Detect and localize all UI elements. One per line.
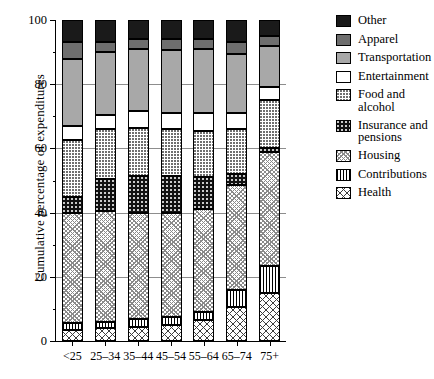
legend-item-label: Entertainment	[358, 70, 429, 83]
bar-segment-housing	[193, 209, 214, 312]
bar-segment-housing	[95, 211, 116, 322]
legend-item-label: Food and alcohol	[358, 88, 432, 113]
light-gray-swatch	[336, 52, 351, 64]
legend-item[interactable]: Insurance and pensions	[336, 119, 432, 144]
bar-segment-apparel	[193, 39, 214, 49]
y-axis-minor-tick	[53, 116, 57, 117]
bar-segment-entertain	[226, 113, 247, 129]
coarse-crosshatch-swatch	[336, 187, 351, 199]
bar-segment-other	[95, 20, 116, 42]
bar-segment-other	[128, 20, 149, 39]
bar-segment-other	[259, 20, 280, 36]
y-axis-title: Cumulative percentage of expenditures	[32, 18, 48, 338]
legend-item[interactable]: Housing	[336, 149, 432, 162]
bar-2534	[95, 20, 116, 341]
bar-segment-other	[161, 20, 182, 39]
y-axis-tick	[50, 213, 56, 214]
legend-item[interactable]: Transportation	[336, 51, 432, 64]
x-axis-tick-label: 65–74	[222, 350, 252, 362]
legend-item[interactable]: Food and alcohol	[336, 88, 432, 113]
bar-segment-contrib	[62, 323, 83, 329]
legend-item[interactable]: Contributions	[336, 168, 432, 181]
bar-segment-health	[226, 307, 247, 341]
legend-item[interactable]: Apparel	[336, 33, 432, 46]
x-axis-tick-label: 25–34	[90, 350, 120, 362]
bar-4554	[161, 20, 182, 341]
fine-crosshatch-swatch	[336, 150, 351, 162]
bar-5564	[193, 20, 214, 341]
bar-6574	[226, 20, 247, 341]
y-axis-tick-label: 20	[35, 271, 48, 284]
bar-segment-transport	[161, 50, 182, 113]
bar-segment-transport	[128, 49, 149, 112]
bar-segment-entertain	[62, 126, 83, 140]
bar-segment-food	[95, 129, 116, 179]
bar-segment-entertain	[161, 113, 182, 129]
x-axis-tick	[270, 341, 271, 346]
bar-segment-housing	[226, 185, 247, 289]
bar-segment-insurance	[226, 174, 247, 185]
bar-segment-insurance	[62, 197, 83, 213]
bar-75	[259, 20, 280, 341]
bar-segment-apparel	[128, 39, 149, 49]
bar-segment-housing	[128, 213, 149, 319]
bar-segment-food	[226, 129, 247, 174]
x-axis-tick	[105, 341, 106, 346]
bar-segment-contrib	[128, 319, 149, 327]
x-axis-tick	[138, 341, 139, 346]
bar-segment-transport	[95, 52, 116, 115]
y-axis-tick-label: 40	[35, 206, 48, 219]
y-axis-tick-label: 80	[35, 78, 48, 91]
bar-segment-entertain	[259, 87, 280, 100]
bar-segment-other	[62, 20, 83, 42]
bar-segment-food	[161, 129, 182, 176]
bar-segment-apparel	[259, 36, 280, 46]
x-axis-tick-label: <25	[63, 350, 82, 362]
legend: OtherApparelTransportationEntertainmentF…	[336, 14, 432, 205]
black-dots-swatch	[336, 120, 351, 132]
white-swatch	[336, 71, 351, 83]
legend-item-label: Other	[358, 14, 386, 27]
bar-segment-food	[259, 100, 280, 148]
x-axis-tick	[72, 341, 73, 346]
legend-item[interactable]: Entertainment	[336, 70, 432, 83]
bar-segment-apparel	[95, 42, 116, 52]
bar-segment-entertain	[193, 113, 214, 131]
bar-segment-housing	[259, 152, 280, 266]
bar-segment-insurance	[95, 179, 116, 211]
legend-item-label: Housing	[358, 149, 400, 162]
y-axis-minor-tick	[53, 52, 57, 53]
y-axis-minor-tick	[53, 245, 57, 246]
bar-segment-contrib	[161, 317, 182, 325]
x-axis-tick-label: 75+	[260, 350, 279, 362]
y-axis-tick-label: 60	[35, 142, 48, 155]
plot-area: 020406080100 <2525–3435–4445–5455–6465–7…	[55, 20, 286, 342]
bar-segment-insurance	[161, 176, 182, 213]
solid-black-swatch	[336, 15, 351, 27]
x-axis-tick	[204, 341, 205, 346]
bar-segment-health	[128, 327, 149, 341]
bar-3544	[128, 20, 149, 341]
bar-segment-other	[193, 20, 214, 39]
bar-segment-food	[128, 128, 149, 176]
bar-segment-transport	[259, 46, 280, 88]
bar-segment-health	[62, 330, 83, 341]
bar-segment-contrib	[226, 290, 247, 308]
legend-item[interactable]: Health	[336, 186, 432, 199]
bar-segment-insurance	[259, 148, 280, 151]
legend-item-label: Apparel	[358, 33, 398, 46]
y-axis-tick	[50, 20, 56, 21]
dark-gray-swatch	[336, 34, 351, 46]
bar-segment-transport	[226, 54, 247, 113]
bar-segment-entertain	[95, 115, 116, 129]
bar-segment-contrib	[259, 266, 280, 293]
bar-segment-food	[62, 140, 83, 196]
legend-item[interactable]: Other	[336, 14, 432, 27]
bar-segment-entertain	[128, 111, 149, 127]
bar-segment-food	[193, 131, 214, 178]
y-axis-tick	[50, 341, 56, 342]
y-axis-tick-label: 0	[41, 335, 47, 348]
bar-segment-contrib	[95, 322, 116, 328]
bar-25	[62, 20, 83, 341]
legend-item-label: Health	[358, 186, 391, 199]
